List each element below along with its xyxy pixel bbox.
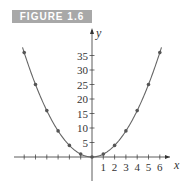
data-point <box>22 51 26 55</box>
parabola-chart: 1234565101520253035yx <box>0 0 184 181</box>
data-point <box>135 109 139 113</box>
data-point <box>68 144 72 148</box>
x-tick-label: 3 <box>123 161 129 173</box>
data-point <box>102 152 106 156</box>
data-point <box>90 155 94 159</box>
data-point <box>113 144 117 148</box>
data-point <box>34 83 38 87</box>
x-tick-label: 1 <box>101 161 107 173</box>
data-point <box>45 109 49 113</box>
x-axis-label: x <box>173 158 180 172</box>
y-axis-arrow-icon <box>90 28 94 34</box>
data-point <box>147 83 151 87</box>
data-point <box>158 51 162 55</box>
data-point <box>56 129 60 133</box>
x-tick-label: 4 <box>134 161 140 173</box>
x-tick-label: 2 <box>112 161 118 173</box>
y-tick-label: 15 <box>77 108 89 120</box>
y-tick-label: 5 <box>83 137 89 149</box>
y-tick-label: 30 <box>77 64 89 76</box>
x-axis-arrow-icon <box>165 155 170 159</box>
y-axis-label: y <box>95 26 102 40</box>
x-tick-label: 6 <box>157 161 163 173</box>
data-point <box>79 152 83 156</box>
y-tick-label: 20 <box>77 93 89 105</box>
x-tick-label: 5 <box>146 161 152 173</box>
y-tick-label: 35 <box>77 50 89 62</box>
data-point <box>124 129 128 133</box>
y-tick-label: 10 <box>77 122 89 134</box>
y-tick-label: 25 <box>77 79 89 91</box>
